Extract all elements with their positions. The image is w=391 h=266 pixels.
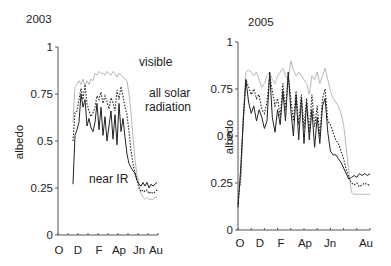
annotation-all-solar-line1: all solar: [149, 86, 190, 100]
ytick-0.75: 0.75: [211, 83, 233, 95]
xtick-D: D: [256, 237, 264, 249]
xtick-D: D: [74, 244, 82, 256]
ytick-0.25: 0.25: [31, 182, 53, 194]
ytick-0: 0: [47, 229, 53, 241]
series-near-ir: [238, 72, 370, 207]
xtick-Ap: Ap: [112, 244, 126, 256]
chart-title-2005: 2005: [248, 16, 274, 28]
y-axis-label: albedo: [13, 125, 25, 160]
xtick-O: O: [236, 237, 245, 249]
xtick-Jn: Jn: [324, 237, 336, 249]
xtick-Ap: Ap: [298, 237, 312, 249]
annotation-all-solar: all solar radiation: [145, 86, 194, 114]
ytick-0.5: 0.5: [37, 135, 53, 147]
axis-ticks: [235, 42, 370, 230]
xtick-Au: Au: [359, 237, 373, 249]
xtick-F: F: [277, 237, 284, 249]
series-group-2005: [238, 61, 370, 208]
xtick-O: O: [55, 244, 64, 256]
chart-2005: 2005 1 0.75 0.5 0.25 0 albedo O D F Ap J…: [211, 16, 373, 249]
albedo-charts: 2003 1 0.75 0.5 0.25 0 albedo O D F Ap J…: [0, 0, 391, 266]
ytick-0.75: 0.75: [31, 88, 53, 100]
ytick-1: 1: [227, 36, 233, 48]
annotation-near-ir: near IR: [89, 172, 129, 186]
ytick-0: 0: [227, 224, 233, 236]
annotation-all-solar-line2: radiation: [145, 100, 191, 114]
chart-title-2003: 2003: [26, 13, 52, 25]
y-axis-label: albedo: [223, 120, 235, 155]
xtick-Jn: Jn: [133, 244, 145, 256]
ytick-1: 1: [47, 41, 53, 53]
chart-2003: 2003 1 0.75 0.5 0.25 0 albedo O D F Ap J…: [13, 13, 194, 256]
ytick-0.25: 0.25: [211, 177, 233, 189]
annotation-visible: visible: [139, 55, 173, 69]
xtick-F: F: [95, 244, 102, 256]
xtick-Au: Au: [149, 244, 163, 256]
